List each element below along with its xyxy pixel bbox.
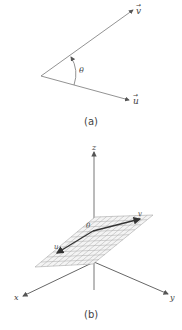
caption-b: (b) [84,309,98,320]
y-axis [94,262,168,294]
plane-grid [35,215,153,267]
vector-arrow-accent-icon: → [136,1,141,8]
caption-a: (a) [84,116,98,127]
vector-v-label-3d: v [138,210,142,218]
vector-v-arrow [41,10,133,76]
figure-canvas: v → θ u → (a) z x y [0,0,182,330]
vector-u-arrow [41,76,129,100]
vector-arrow-accent-icon: → [133,91,138,98]
figure-a: v → θ u → (a) [41,1,141,127]
angle-arc [71,57,76,85]
x-axis [23,262,94,296]
y-axis-label: y [169,293,175,302]
angle-theta-label: θ [79,66,84,75]
z-axis-label: z [91,143,97,152]
vector-u-label-3d: u [54,243,59,251]
figure-b: z x y θ v u [14,143,175,320]
x-axis-label: x [14,293,19,302]
